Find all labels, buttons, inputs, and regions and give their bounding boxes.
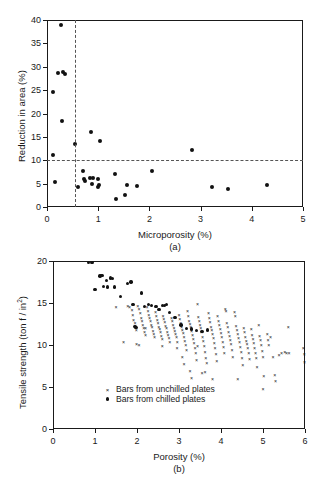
data-point-dot <box>131 303 134 306</box>
x-axis-title-b: Porosity (%) <box>153 451 205 462</box>
x-axis-title-a: Microporosity (%) <box>138 229 212 240</box>
x-tick-b <box>95 429 96 433</box>
x-tick-b <box>179 429 180 433</box>
data-point-x: × <box>257 323 261 327</box>
data-point-x: × <box>188 369 192 373</box>
x-tick-a <box>201 207 202 211</box>
data-point-x: × <box>122 340 126 344</box>
data-point-x: × <box>233 314 237 318</box>
data-point-x: × <box>160 344 164 348</box>
data-point-x: × <box>180 355 184 359</box>
y-tick-a <box>43 137 47 138</box>
data-point-x: × <box>143 333 147 337</box>
data-point-x: × <box>182 362 186 366</box>
x-tick-b <box>53 429 54 433</box>
x-tick-b <box>305 429 306 433</box>
data-point-x: × <box>254 356 258 360</box>
data-point-x: × <box>114 305 118 309</box>
data-point-x: × <box>202 344 206 348</box>
data-point-dot <box>140 291 143 294</box>
x-tick-label-b: 5 <box>260 437 265 446</box>
data-point-dot <box>98 139 102 143</box>
legend-dot-icon <box>103 394 112 404</box>
x-tick-b <box>137 429 138 433</box>
horizontal-reference-line <box>47 160 303 161</box>
data-point-x: × <box>301 346 305 350</box>
y-tick-b <box>49 387 53 388</box>
data-point-x: × <box>259 343 263 347</box>
data-point-x: × <box>230 348 234 352</box>
data-point-x: × <box>273 373 277 377</box>
data-point-dot <box>102 285 105 288</box>
data-point-dot <box>114 197 118 201</box>
data-point-x: × <box>271 355 275 359</box>
data-point-dot <box>51 153 55 157</box>
data-point-x: × <box>267 343 271 347</box>
data-point-dot <box>106 285 109 288</box>
data-point-x: × <box>215 359 219 363</box>
data-point-x: × <box>249 327 253 331</box>
y-tick-a <box>43 67 47 68</box>
data-point-dot <box>90 182 94 186</box>
data-point-x: × <box>216 314 220 318</box>
data-point-dot <box>157 308 160 311</box>
data-point-x: × <box>143 326 147 330</box>
data-point-dot <box>76 185 80 189</box>
x-tick-b <box>221 429 222 433</box>
y-tick-b <box>49 303 53 304</box>
data-point-x: × <box>231 355 235 359</box>
data-point-x: × <box>247 351 251 355</box>
x-tick-a <box>252 207 253 211</box>
y-tick-label-b: 20 <box>19 257 47 266</box>
y-tick-label-a: 0 <box>13 203 41 212</box>
data-point-x: × <box>168 340 172 344</box>
data-point-x: × <box>195 344 199 348</box>
x-tick-a <box>98 207 99 211</box>
data-point-x: × <box>241 363 245 367</box>
y-tick-a <box>43 20 47 21</box>
y-axis-title-b-base: Tensile strength (ton f / in <box>17 303 28 409</box>
x-tick-label-b: 2 <box>134 437 139 446</box>
data-point-x: × <box>137 343 141 347</box>
x-tick-a <box>149 207 150 211</box>
y-tick-a <box>43 114 47 115</box>
x-tick-label-b: 6 <box>302 437 307 446</box>
y-tick-label-b: 0 <box>19 425 47 434</box>
data-point-dot <box>265 183 269 187</box>
data-point-x: × <box>255 365 259 369</box>
y-tick-label-a: 5 <box>13 179 41 188</box>
data-point-x: × <box>261 355 265 359</box>
data-point-dot <box>113 172 117 176</box>
x-tick-label-b: 4 <box>218 437 223 446</box>
data-point-x: × <box>262 374 266 378</box>
x-tick-label-a: 0 <box>44 215 49 224</box>
vertical-reference-line <box>75 20 76 207</box>
x-tick-label-a: 4 <box>249 215 254 224</box>
data-point-x: × <box>204 356 208 360</box>
data-point-x: × <box>222 345 226 349</box>
data-point-x: × <box>236 377 240 381</box>
data-point-x: × <box>203 350 207 354</box>
legend-label-chilled: Bars from chilled plates <box>116 394 205 404</box>
data-point-x: × <box>195 358 199 362</box>
data-point-dot <box>129 280 132 283</box>
data-point-x: × <box>213 346 217 350</box>
data-point-x: × <box>205 361 209 365</box>
data-point-x: × <box>214 352 218 356</box>
data-point-x: × <box>274 379 278 383</box>
data-point-dot <box>119 295 122 298</box>
y-tick-label-a: 40 <box>13 16 41 25</box>
data-point-x: × <box>175 346 179 350</box>
y-tick-a <box>43 90 47 91</box>
figure-container: 0510152025303540012345 Reduction in area… <box>0 0 331 482</box>
y-tick-b <box>49 261 53 262</box>
x-tick-b <box>263 429 264 433</box>
data-point-dot <box>59 23 63 27</box>
data-point-x: × <box>239 350 243 354</box>
data-point-x: × <box>253 346 257 350</box>
y-axis-title-b-exponent: 2 <box>16 299 23 303</box>
y-axis-title-b-tail: ) <box>17 296 28 299</box>
data-point-x: × <box>260 349 264 353</box>
legend-x-icon: × <box>103 384 112 394</box>
data-point-x: × <box>269 335 273 339</box>
